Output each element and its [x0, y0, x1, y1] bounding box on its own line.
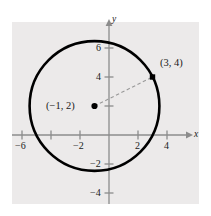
y-tick-label-pos4: 4 [96, 72, 101, 82]
x-tick-label-pos4: 4 [164, 141, 169, 151]
y-tick-label-neg2: −2 [90, 159, 101, 169]
x-tick-label-pos2: 2 [135, 141, 140, 151]
y-axis [106, 19, 113, 204]
y-axis-name: y [112, 15, 116, 25]
x-tick-label-neg2: −2 [73, 141, 84, 151]
y-tick-label-neg4: −4 [90, 188, 101, 198]
x-tick-label-neg6: −6 [15, 141, 26, 151]
x-axis-name: x [194, 130, 198, 140]
center-point-marker [91, 103, 97, 109]
circle-point-marker [150, 74, 155, 79]
circle-point-label: (3, 4) [160, 58, 183, 69]
y-tick-label-pos6: 6 [96, 43, 101, 53]
coordinate-plane-graphic [0, 0, 211, 216]
radius-dashed-line [95, 77, 153, 106]
center-point-label: (−1, 2) [46, 101, 75, 112]
figure-container: −6 −2 2 4 6 4 −2 −4 x y (−1, 2) (3, 4) [0, 0, 211, 216]
